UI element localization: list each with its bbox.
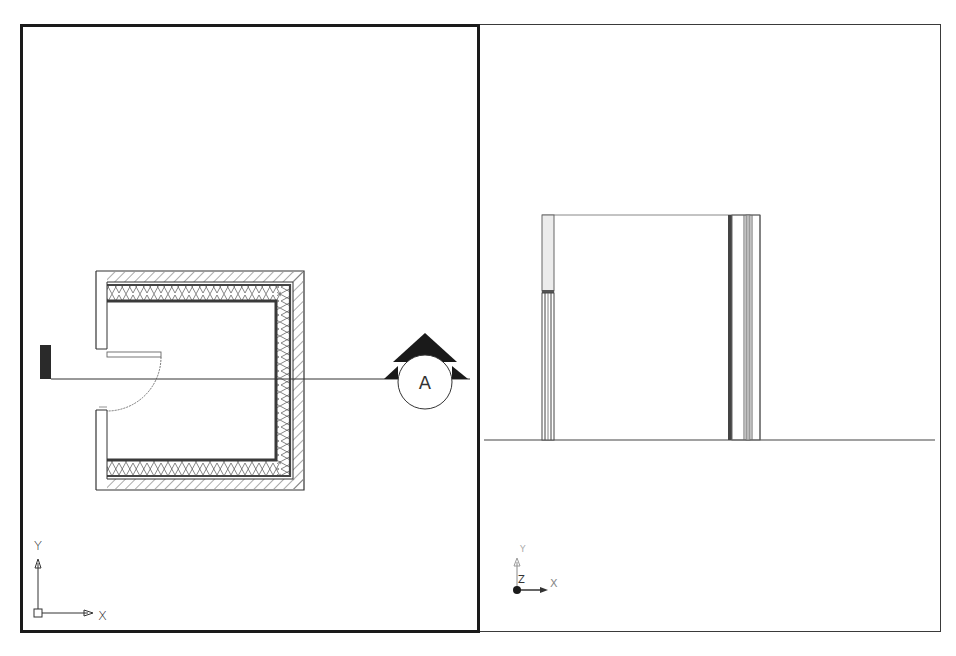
door-jamb-left (542, 215, 554, 440)
viewport-plan[interactable] (20, 24, 480, 633)
section-line-end-marker (40, 345, 51, 379)
section-marker-label: A (419, 372, 432, 393)
